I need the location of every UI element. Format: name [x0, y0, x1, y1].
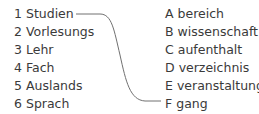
matching-line — [0, 0, 259, 114]
